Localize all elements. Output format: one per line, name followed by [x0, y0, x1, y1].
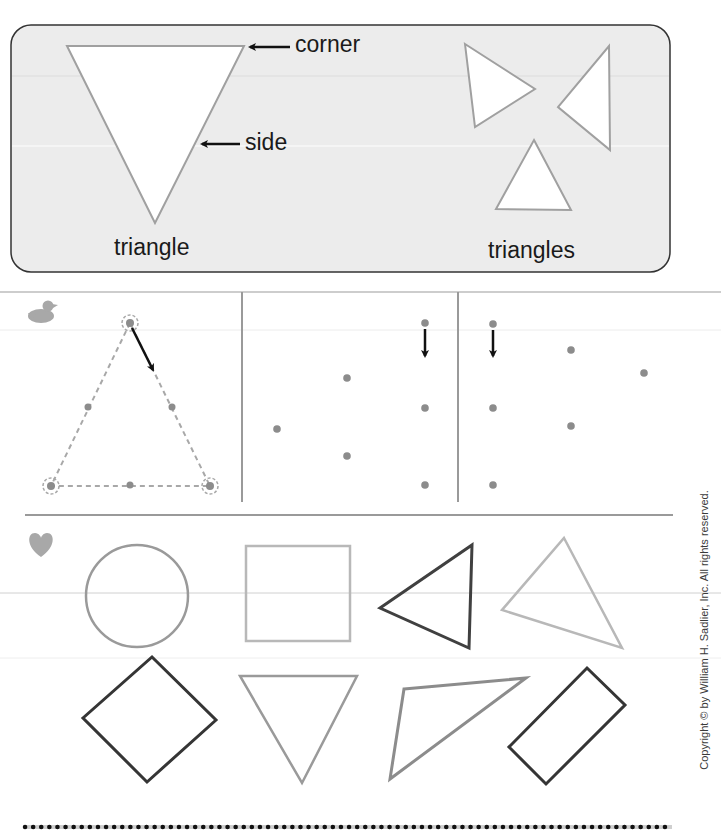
traced-triangle-example: [43, 315, 218, 494]
dot-triangle-2[interactable]: [489, 320, 648, 489]
side-label: side: [245, 131, 287, 154]
start-arrow: [132, 328, 153, 370]
shape-rectangle[interactable]: [509, 668, 625, 784]
triangle-label: triangle: [114, 236, 189, 259]
triangles-label: triangles: [488, 239, 575, 262]
duck-icon: [28, 301, 58, 324]
intro-panel: [11, 25, 670, 272]
dot-triangle-1[interactable]: [273, 319, 429, 489]
shape-circle[interactable]: [86, 545, 188, 647]
copyright-notice: Copyright © by William H. Sadlier, Inc. …: [698, 490, 710, 770]
shape-scalene-triangle[interactable]: [390, 678, 526, 779]
shape-triangle-dark[interactable]: [380, 545, 472, 648]
shape-diamond[interactable]: [83, 657, 216, 782]
worksheet-graphics: [0, 0, 721, 836]
corner-label: corner: [295, 33, 360, 56]
shape-inverted-triangle[interactable]: [240, 676, 357, 783]
heart-icon: [29, 533, 52, 557]
